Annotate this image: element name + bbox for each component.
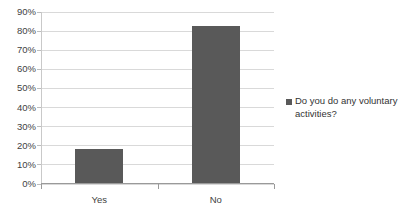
y-axis-tick-label: 10% xyxy=(0,160,36,170)
y-axis-tick-label: 50% xyxy=(0,83,36,93)
y-axis-tick-label: 70% xyxy=(0,45,36,55)
chart-title xyxy=(41,0,274,3)
bar xyxy=(192,26,240,183)
bar xyxy=(75,149,123,183)
y-axis-tick-label: 0% xyxy=(0,179,36,189)
x-axis-tick-label: No xyxy=(158,194,275,205)
y-axis-tick-label: 30% xyxy=(0,122,36,132)
legend-item-label: Do you do any voluntary activities? xyxy=(295,95,417,120)
plot-area xyxy=(41,12,274,184)
legend-swatch-icon xyxy=(286,99,292,105)
y-axis-tick-label: 40% xyxy=(0,103,36,113)
x-axis-tick-mark xyxy=(274,184,275,189)
x-axis-tick-mark xyxy=(41,184,42,189)
chart-legend: Do you do any voluntary activities? xyxy=(286,95,418,120)
x-axis-tick-label: Yes xyxy=(41,194,158,205)
y-axis-tick-label: 80% xyxy=(0,26,36,36)
y-axis-tick-label: 20% xyxy=(0,141,36,151)
x-axis-labels: YesNo xyxy=(41,184,274,213)
bar-chart: 90%80%70%60%50%40%30%20%10%0% YesNo Do y… xyxy=(0,0,420,213)
bar-series xyxy=(41,12,274,184)
y-axis-labels: 90%80%70%60%50%40%30%20%10%0% xyxy=(0,12,36,184)
x-axis-tick-mark xyxy=(158,184,159,189)
y-axis-tick-label: 90% xyxy=(0,7,36,17)
y-axis-tick-label: 60% xyxy=(0,64,36,74)
legend-item: Do you do any voluntary activities? xyxy=(286,95,418,120)
